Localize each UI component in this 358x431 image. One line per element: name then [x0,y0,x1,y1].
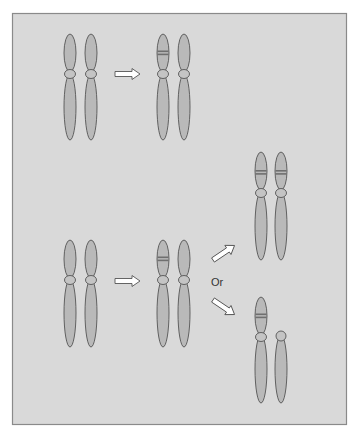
mutation-band [275,170,286,172]
mutation-band [275,173,286,175]
chromosome-banded [255,297,267,403]
chromosome-banded [157,34,169,140]
chromosome-banded [255,152,267,260]
chromosome-banded [157,240,169,347]
mutation-band [157,257,168,259]
or-label: Or [211,276,224,288]
centromere [65,276,76,285]
chromosome [85,240,97,347]
chromosome [64,240,76,347]
centromere [179,276,190,285]
centromere [276,331,286,341]
chromosome-banded [275,152,287,260]
centromere [256,189,267,198]
centromere [276,189,287,198]
centromere [65,70,76,79]
centromere [86,276,97,285]
chromosome-diagram: Or [0,0,358,431]
mutation-band [157,260,168,262]
mutation-band [157,54,168,56]
chromosome [178,240,190,347]
mutation-band [255,170,266,172]
mutation-band [255,314,266,316]
centromere [256,333,267,342]
centromere [86,70,97,79]
centromere [158,70,169,79]
chromosome [178,34,190,140]
chromosome [64,34,76,140]
chromosome [85,34,97,140]
mutation-band [255,317,266,319]
mutation-band [255,173,266,175]
centromere [158,276,169,285]
centromere [179,70,190,79]
mutation-band [157,51,168,53]
